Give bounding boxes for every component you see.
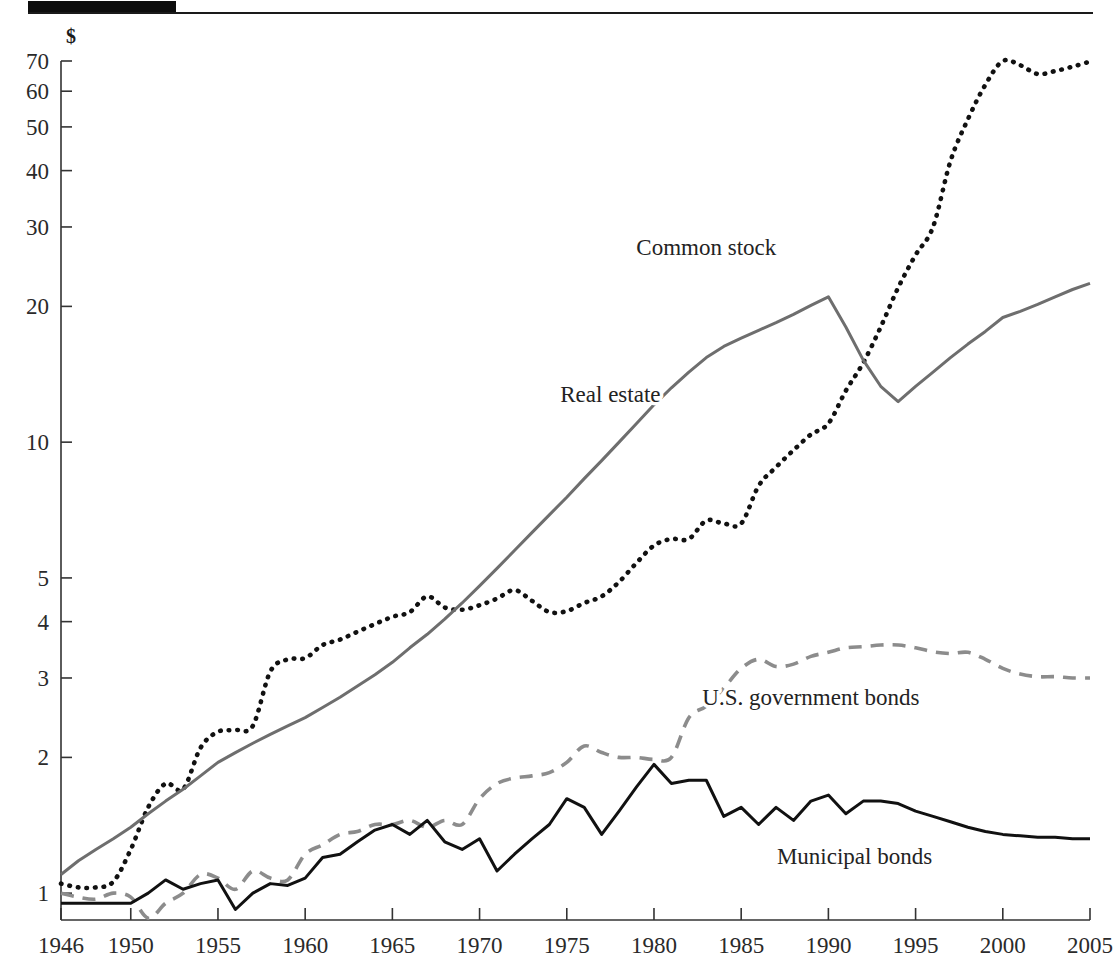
currency-symbol-label: $ bbox=[66, 25, 76, 47]
y-tick-label: 5 bbox=[38, 566, 50, 591]
x-tick-label: 1985 bbox=[718, 933, 764, 958]
series-label-common-stock: Common stock bbox=[636, 235, 776, 260]
x-tick-label: 1955 bbox=[195, 933, 241, 958]
x-tick-label: 1980 bbox=[631, 933, 677, 958]
x-tick-label: 2000 bbox=[980, 933, 1026, 958]
y-tick-label: 60 bbox=[26, 79, 49, 104]
x-tick-label: 2005 bbox=[1067, 933, 1113, 958]
x-tick-label: 1990 bbox=[805, 933, 851, 958]
y-tick-label: 40 bbox=[26, 159, 49, 184]
series-line-u-s-government-bonds bbox=[61, 645, 1090, 919]
y-tick-label: 30 bbox=[26, 215, 49, 240]
y-tick-label: 10 bbox=[26, 430, 49, 455]
series-group bbox=[61, 60, 1090, 918]
y-tick-label: 4 bbox=[38, 610, 50, 635]
x-tick-label: 1960 bbox=[282, 933, 328, 958]
x-tick-label: 1965 bbox=[369, 933, 415, 958]
x-tick-label: 1970 bbox=[457, 933, 503, 958]
line-chart: 1234510203040506070$19461950195519601965… bbox=[0, 0, 1117, 971]
series-label-municipal-bonds: Municipal bonds bbox=[777, 844, 932, 869]
series-line-real-estate bbox=[61, 283, 1090, 874]
y-tick-label: 20 bbox=[26, 294, 49, 319]
x-tick-label: 1950 bbox=[108, 933, 154, 958]
series-labels-group: Common stockCommon stockReal estateReal … bbox=[560, 235, 932, 869]
figure-root: 1234510203040506070$19461950195519601965… bbox=[0, 0, 1117, 971]
x-tick-label: 1975 bbox=[544, 933, 590, 958]
x-tick-label: 1995 bbox=[893, 933, 939, 958]
y-tick-label: 1 bbox=[38, 881, 50, 906]
series-label-real-estate: Real estate bbox=[560, 382, 660, 407]
y-tick-label: 2 bbox=[38, 745, 50, 770]
series-line-municipal-bonds bbox=[61, 764, 1090, 909]
series-label-u-s-government-bonds: U.S. government bonds bbox=[702, 685, 919, 710]
y-tick-label: 50 bbox=[26, 115, 49, 140]
x-tick-label: 1946 bbox=[38, 933, 84, 958]
y-tick-label: 70 bbox=[26, 49, 49, 74]
y-tick-label: 3 bbox=[38, 666, 50, 691]
